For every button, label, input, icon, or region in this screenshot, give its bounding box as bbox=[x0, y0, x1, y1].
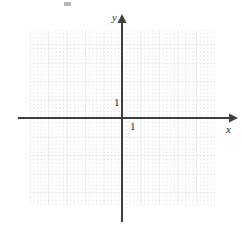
x-axis-unit-tick-label: 1 bbox=[130, 121, 136, 132]
y-axis-arrowhead bbox=[118, 14, 127, 23]
y-axis-label: y bbox=[112, 12, 117, 23]
coordinate-plane-figure: y x 1 1 bbox=[0, 0, 242, 230]
top-edge-artifact bbox=[64, 2, 71, 6]
coordinate-plane-svg bbox=[0, 0, 242, 230]
x-axis-arrowhead bbox=[229, 114, 238, 123]
x-axis-label: x bbox=[226, 124, 231, 135]
y-axis-unit-tick-label: 1 bbox=[114, 97, 120, 108]
